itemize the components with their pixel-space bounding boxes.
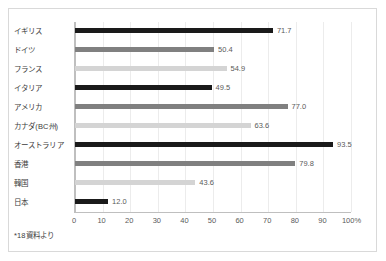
x-tick-label: 40 bbox=[180, 215, 188, 227]
bar-row: 49.5 bbox=[75, 79, 351, 98]
bar[interactable] bbox=[75, 199, 108, 204]
bar-value-label: 93.5 bbox=[337, 138, 352, 151]
x-tick-label: 60 bbox=[235, 215, 243, 227]
chart-figure: イギリスドイツフランスイタリアアメリカカナダ(BC州)オーストラリア香港韓国日本… bbox=[0, 0, 386, 261]
bar-value-label: 54.9 bbox=[231, 62, 246, 75]
category-label: 日本 bbox=[14, 193, 72, 212]
x-tick-label: 50 bbox=[208, 215, 216, 227]
bar-row: 71.7 bbox=[75, 22, 351, 41]
category-label: ドイツ bbox=[14, 41, 72, 60]
bar-value-label: 43.6 bbox=[199, 176, 214, 189]
bar-value-label: 71.7 bbox=[277, 24, 292, 37]
category-label: イギリス bbox=[14, 22, 72, 41]
bar[interactable] bbox=[75, 85, 212, 90]
x-tick-label: 80 bbox=[291, 215, 299, 227]
bar[interactable] bbox=[75, 142, 333, 147]
bar-value-label: 12.0 bbox=[112, 195, 127, 208]
x-tick-label: 70 bbox=[263, 215, 271, 227]
category-label: オーストラリア bbox=[14, 136, 72, 155]
category-label: イタリア bbox=[14, 79, 72, 98]
bar-value-label: 79.8 bbox=[299, 157, 314, 170]
x-tick-label: 90 bbox=[318, 215, 326, 227]
x-axis-line bbox=[74, 212, 351, 213]
bar[interactable] bbox=[75, 123, 251, 128]
category-label: フランス bbox=[14, 60, 72, 79]
bar-row: 54.9 bbox=[75, 60, 351, 79]
category-label: 香港 bbox=[14, 155, 72, 174]
bar[interactable] bbox=[75, 28, 273, 33]
category-axis-labels: イギリスドイツフランスイタリアアメリカカナダ(BC州)オーストラリア香港韓国日本 bbox=[14, 22, 72, 212]
bar-row: 77.0 bbox=[75, 98, 351, 117]
chart-plot-wrapper: イギリスドイツフランスイタリアアメリカカナダ(BC州)オーストラリア香港韓国日本… bbox=[14, 20, 354, 235]
bar-row: 63.6 bbox=[75, 117, 351, 136]
bar-row: 43.6 bbox=[75, 174, 351, 193]
source-footnote: *18資料より bbox=[14, 229, 54, 240]
gridline bbox=[351, 22, 352, 212]
bar-row: 12.0 bbox=[75, 193, 351, 212]
bar[interactable] bbox=[75, 66, 227, 71]
bar-row: 79.8 bbox=[75, 155, 351, 174]
x-tick-label: 10 bbox=[97, 215, 105, 227]
bar-value-label: 77.0 bbox=[292, 100, 307, 113]
plot-area: 71.750.454.949.577.063.693.579.843.612.0 bbox=[74, 22, 351, 212]
bar-value-label: 50.4 bbox=[218, 43, 233, 56]
x-axis-tick-labels: 0102030405060708090100% bbox=[74, 215, 351, 229]
bar[interactable] bbox=[75, 161, 295, 166]
bar-row: 93.5 bbox=[75, 136, 351, 155]
category-label: カナダ(BC州) bbox=[14, 117, 72, 136]
category-label: アメリカ bbox=[14, 98, 72, 117]
x-tick-label: 100% bbox=[342, 215, 361, 227]
bar-value-label: 63.6 bbox=[255, 119, 270, 132]
x-tick-label: 0 bbox=[72, 215, 76, 227]
bar[interactable] bbox=[75, 104, 288, 109]
bar-value-label: 49.5 bbox=[216, 81, 231, 94]
category-label: 韓国 bbox=[14, 174, 72, 193]
bar[interactable] bbox=[75, 180, 195, 185]
bar[interactable] bbox=[75, 47, 214, 52]
bar-row: 50.4 bbox=[75, 41, 351, 60]
x-tick-label: 20 bbox=[125, 215, 133, 227]
x-tick-label: 30 bbox=[153, 215, 161, 227]
